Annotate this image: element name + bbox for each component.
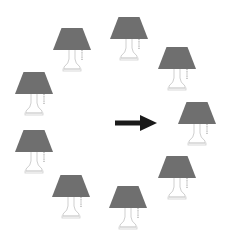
lamp-icon [15, 130, 53, 173]
lamp-icon [109, 186, 147, 229]
lamp-shade [53, 28, 91, 50]
lamp-base [189, 124, 205, 143]
arrow-shaft [115, 121, 141, 126]
lamp-base [169, 178, 185, 197]
lamp-base-plate [119, 227, 137, 229]
lamp-base-plate [168, 88, 186, 90]
lamp-shade [158, 156, 196, 178]
lamp-shade [110, 17, 148, 39]
arrow-right-icon [115, 115, 157, 131]
lamp-icon [158, 47, 196, 90]
lamp-circle-diagram [0, 0, 225, 235]
lamp-base [169, 69, 185, 88]
lamp-icon [15, 72, 53, 115]
lamp-shade [52, 175, 90, 197]
lamp-base-plate [63, 69, 81, 71]
lamp-shade [178, 102, 216, 124]
lamp-base [120, 208, 136, 227]
lamp-icon [110, 17, 148, 60]
arrow-head [140, 115, 157, 131]
lamp-icon [178, 102, 216, 145]
lamp-base-plate [62, 216, 80, 218]
lamp-base [63, 197, 79, 216]
diagram-canvas [0, 0, 225, 235]
lamp-base [64, 50, 80, 69]
lamp-base [121, 39, 137, 58]
lamp-icon [53, 28, 91, 71]
lamp-base-plate [188, 143, 206, 145]
lamp-shade [15, 130, 53, 152]
lamp-base-plate [168, 197, 186, 199]
lamp-shade [15, 72, 53, 94]
lamp-shade [109, 186, 147, 208]
lamp-base-plate [25, 113, 43, 115]
lamp-base [26, 94, 42, 113]
lamp-icon [158, 156, 196, 199]
lamp-base-plate [120, 58, 138, 60]
lamp-base-plate [25, 171, 43, 173]
lamp-shade [158, 47, 196, 69]
lamp-icon [52, 175, 90, 218]
lamp-base [26, 152, 42, 171]
